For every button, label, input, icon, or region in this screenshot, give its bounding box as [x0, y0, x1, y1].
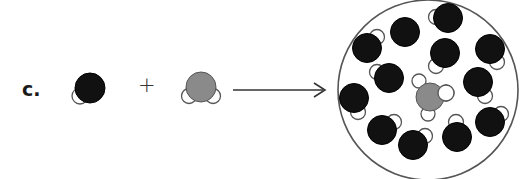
solvent-atom [443, 123, 472, 152]
solution-container [338, 0, 518, 179]
solvent-atom [340, 84, 369, 113]
solute-molecule-icon [182, 72, 221, 104]
reactants-group [72, 72, 221, 104]
solvent-molecule-icon [72, 73, 105, 104]
solvent-atom [391, 18, 420, 47]
solvent-atom [464, 68, 493, 97]
hydrogen-atom [438, 85, 454, 101]
solvent-atom [368, 116, 397, 145]
solvent-atom [431, 39, 460, 68]
solvent-atom [476, 108, 505, 137]
solvent-atom [434, 4, 463, 33]
solvent-atom [375, 64, 404, 93]
center-atom [75, 73, 105, 103]
solvent-molecule-icon [391, 18, 420, 47]
solvent-atom [353, 34, 382, 63]
reaction-arrow-icon [233, 83, 325, 97]
center-atom [186, 72, 216, 102]
solvent-atom [476, 35, 505, 64]
solvent-atom [399, 131, 428, 160]
dissolution-diagram [0, 0, 524, 179]
